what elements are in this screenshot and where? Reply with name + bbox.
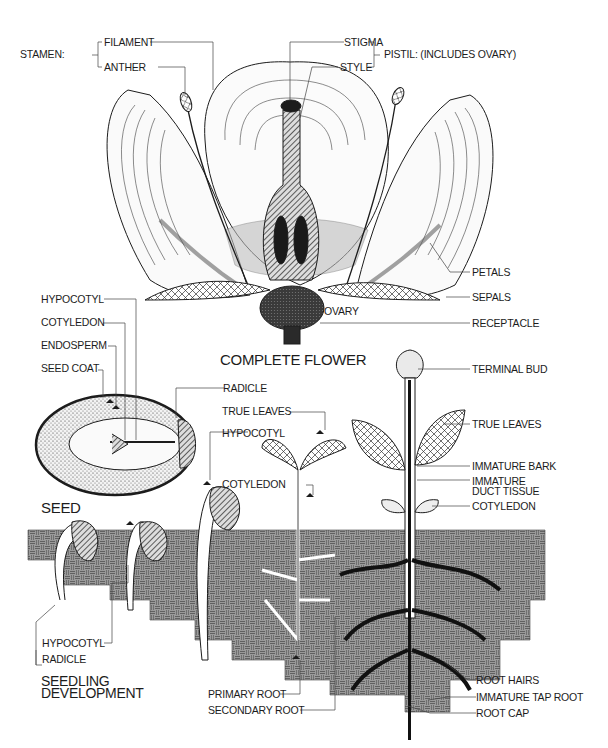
label-style: STYLE <box>340 62 372 73</box>
label-immature-duct-line2: DUCT TISSUE <box>472 486 539 497</box>
label-pistil-group: PISTIL: (INCLUDES OVARY) <box>384 49 516 60</box>
label-root-hairs: ROOT HAIRS <box>476 675 539 686</box>
label-plant-cotyledon: COTYLEDON <box>472 501 536 512</box>
label-seedling-radicle: RADICLE <box>42 654 86 665</box>
label-seed-hypocotyl: HYPOCOTYL <box>41 294 104 305</box>
label-root-cap: ROOT CAP <box>476 708 529 719</box>
label-plant-true-leaves: TRUE LEAVES <box>472 419 541 430</box>
flower-drawing <box>107 62 493 344</box>
label-seedling-hypocotyl-lower: HYPOCOTYL <box>42 638 105 649</box>
label-ovary: OVARY <box>324 306 359 317</box>
title-seedling-line2: DEVELOPMENT <box>41 687 144 700</box>
label-seed-cotyledon: COTYLEDON <box>41 317 105 328</box>
label-immature-bark: IMMATURE BARK <box>472 461 556 472</box>
label-seedling-cotyledon: COTYLEDON <box>222 479 286 490</box>
label-sepals: SEPALS <box>472 292 511 303</box>
label-endosperm: ENDOSPERM <box>41 340 107 351</box>
title-seed: SEED <box>41 500 81 515</box>
plant-anatomy-diagram: STAMEN: FILAMENT ANTHER STIGMA STYLE PIS… <box>0 0 608 748</box>
label-immature-tap-root: IMMATURE TAP ROOT <box>476 692 583 703</box>
label-filament: FILAMENT <box>104 37 154 48</box>
label-secondary-root: SECONDARY ROOT <box>208 705 305 716</box>
label-seedling-hypocotyl-upper: HYPOCOTYL <box>222 428 285 439</box>
label-petals: PETALS <box>472 267 510 278</box>
label-seed-coat: SEED COAT <box>41 363 99 374</box>
label-primary-root: PRIMARY ROOT <box>208 689 286 700</box>
label-terminal-bud: TERMINAL BUD <box>472 364 547 375</box>
label-stigma: STIGMA <box>344 37 383 48</box>
label-stamen-group: STAMEN: <box>20 49 65 60</box>
label-receptacle: RECEPTACLE <box>472 318 539 329</box>
title-complete-flower: COMPLETE FLOWER <box>220 352 366 367</box>
label-seedling-true-leaves: TRUE LEAVES <box>222 406 291 417</box>
seed-drawing <box>36 395 196 495</box>
label-seed-radicle: RADICLE <box>223 383 267 394</box>
label-anther: ANTHER <box>104 62 146 73</box>
